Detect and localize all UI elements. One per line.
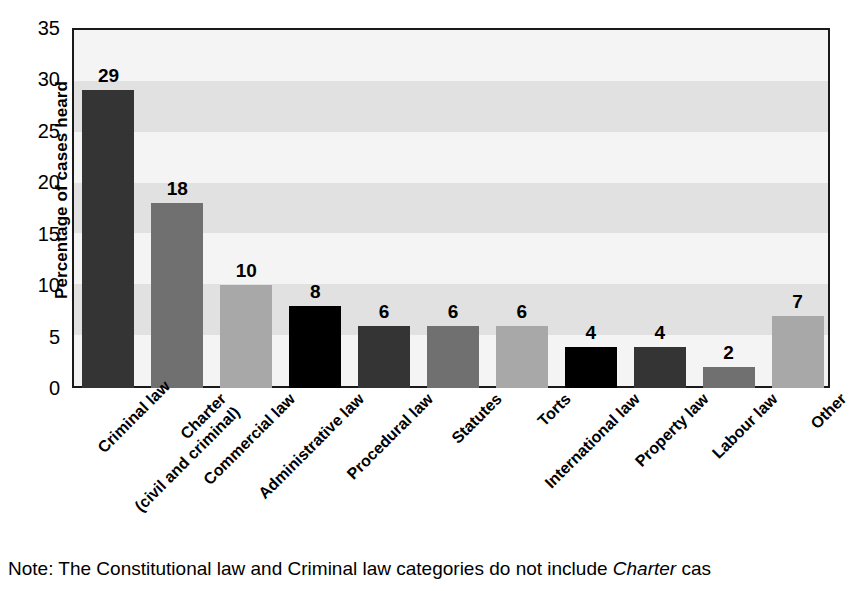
bar-rect[interactable]	[565, 347, 617, 388]
bar-rect[interactable]	[289, 306, 341, 388]
bar-value-label: 6	[496, 302, 548, 321]
bar-rect[interactable]	[82, 90, 134, 388]
bar-rect[interactable]	[772, 316, 824, 388]
bar-value-label: 6	[358, 302, 410, 321]
x-axis-category-labels: Criminal lawCharter(civil and criminal)C…	[72, 390, 830, 540]
x-axis-label-line1: Criminal law	[94, 390, 161, 457]
footnote-suffix: cas	[676, 558, 711, 579]
y-axis-tick-0: 0	[8, 378, 60, 398]
bars-layer: 29181086664427	[72, 28, 830, 388]
y-axis-tick-5: 5	[8, 327, 60, 347]
footnote-italic-term: Charter	[613, 558, 676, 579]
bar-group-11[interactable]: 7	[772, 28, 824, 388]
bar-value-label: 2	[703, 343, 755, 362]
bar-value-label: 18	[151, 179, 203, 198]
bar-value-label: 29	[82, 66, 134, 85]
bar-group-8[interactable]: 4	[565, 28, 617, 388]
y-axis-tick-20: 20	[8, 172, 60, 192]
bar-rect[interactable]	[151, 203, 203, 388]
bar-group-9[interactable]: 4	[634, 28, 686, 388]
bar-chart-figure: Percentage of cases heard 35302520151050…	[0, 0, 840, 545]
y-axis-tick-15: 15	[8, 224, 60, 244]
bar-value-label: 6	[427, 302, 479, 321]
chart-footnote: Note: The Constitutional law and Crimina…	[8, 558, 850, 580]
bar-value-label: 10	[220, 261, 272, 280]
footnote-prefix: Note: The Constitutional law and Crimina…	[8, 558, 613, 579]
bar-value-label: 4	[565, 323, 617, 342]
bar-rect[interactable]	[496, 326, 548, 388]
bar-value-label: 7	[772, 292, 824, 311]
y-axis-tick-30: 30	[8, 69, 60, 89]
bar-group-10[interactable]: 2	[703, 28, 755, 388]
bar-group-6[interactable]: 6	[427, 28, 479, 388]
y-axis-tick-25: 25	[8, 121, 60, 141]
bar-group-5[interactable]: 6	[358, 28, 410, 388]
bar-group-1[interactable]: 29	[82, 28, 134, 388]
bar-group-3[interactable]: 10	[220, 28, 272, 388]
x-axis-label-1: Criminal law	[94, 390, 161, 457]
bar-group-7[interactable]: 6	[496, 28, 548, 388]
bar-group-2[interactable]: 18	[151, 28, 203, 388]
bar-rect[interactable]	[427, 326, 479, 388]
y-axis-tick-35: 35	[8, 18, 60, 38]
y-axis-tick-10: 10	[8, 275, 60, 295]
bar-rect[interactable]	[358, 326, 410, 388]
bar-group-4[interactable]: 8	[289, 28, 341, 388]
bar-value-label: 8	[289, 282, 341, 301]
bar-rect[interactable]	[634, 347, 686, 388]
bar-rect[interactable]	[220, 285, 272, 388]
bar-value-label: 4	[634, 323, 686, 342]
bar-rect[interactable]	[703, 367, 755, 388]
